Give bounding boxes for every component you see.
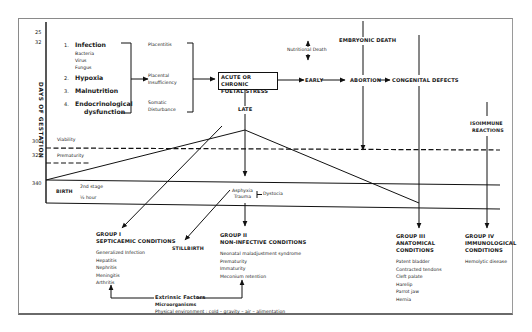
second-stage-label: 2nd stage xyxy=(80,185,103,190)
group-subtitle: SEPTICAEMIC CONDITIONS xyxy=(96,238,176,245)
axis-label: DAYS OF GESTATION xyxy=(38,82,44,159)
group-item: Hernia xyxy=(396,296,442,304)
mechanism-placental: Placental xyxy=(148,74,169,79)
abortion-label: ABORTION xyxy=(350,78,381,83)
foetal-stress-box: ACUTE OR CHRONIC FOETAL STRESS xyxy=(218,72,278,90)
group-items: Patent bladder Contracted tendons Cleft … xyxy=(396,258,442,304)
asphyxia-label: Asphyxia xyxy=(232,189,253,194)
tick-325: 325 xyxy=(32,153,42,158)
stillbirth-label: STILLBIRTH xyxy=(172,247,204,252)
cause-label: Malnutrition xyxy=(75,88,118,94)
stress-box-line2: FOETAL STRESS xyxy=(221,88,275,95)
group-3: GROUP III ANATOMICAL CONDITIONS Patent b… xyxy=(396,233,442,304)
group-item: Generalized Infection xyxy=(96,249,176,257)
group-item: Harelip xyxy=(396,281,442,289)
group-item: Contracted tendons xyxy=(396,266,442,274)
cause-label: Infection xyxy=(75,42,106,48)
tick-300: 300 xyxy=(32,139,42,144)
cause-number: 3. xyxy=(64,89,69,94)
group-item: Nephritis xyxy=(96,264,176,272)
group-item: Arthritis xyxy=(96,279,176,287)
mechanism-placentitis: Placentitis xyxy=(148,43,172,48)
tick-25: 25 xyxy=(35,30,41,35)
group-title: GROUP I xyxy=(96,231,176,238)
extrinsic-line1: Microorganisms xyxy=(155,301,285,308)
extrinsic-factors: Extrinsic Factors Microorganisms Physica… xyxy=(155,294,285,315)
extrinsic-line2: Physical environment : cold – gravity – … xyxy=(155,308,285,315)
group-subtitle: NON-INFECTIVE CONDITIONS xyxy=(220,239,306,246)
cause-label: Hypoxia xyxy=(75,75,103,81)
group-subtitle: CONDITIONS xyxy=(396,247,442,254)
tick-32: 32 xyxy=(35,40,41,45)
tick-340: 340 xyxy=(32,181,42,186)
group-subtitle: IMMUNOLOGICAL xyxy=(465,240,516,247)
group-item: Meningitis xyxy=(96,272,176,280)
embryonic-death-label: EMBRYONIC DEATH xyxy=(339,38,396,43)
group-item: Hepatitis xyxy=(96,257,176,265)
cause-sub: Virus xyxy=(75,59,87,64)
late-label: LATE xyxy=(238,107,252,112)
nutritional-death-label: Nutritional Death xyxy=(287,48,327,53)
cause-sub: Bacteria xyxy=(75,52,94,57)
group-title: GROUP II xyxy=(220,232,306,239)
group-subtitle: ANATOMICAL xyxy=(396,240,442,247)
viability-label: Viability xyxy=(57,138,75,143)
group-item: Immaturity xyxy=(220,265,306,273)
dystocia-label: Dystocia xyxy=(263,192,283,197)
mechanism-disturbance: Disturbance xyxy=(148,108,176,113)
group-4: GROUP IV IMMUNOLOGICAL CONDITIONS Hemoly… xyxy=(465,233,516,266)
cause-number: 2. xyxy=(64,76,69,81)
group-item: Meconium retention xyxy=(220,273,306,281)
group-title: GROUP III xyxy=(396,233,442,240)
isoimmune-label: ISOIMMUNE xyxy=(470,122,503,127)
group-subtitle: CONDITIONS xyxy=(465,247,516,254)
half-hour-label: ½ hour xyxy=(80,196,96,201)
prematurity-label: Prematurity xyxy=(57,154,84,159)
group-items: Hemolytic disease xyxy=(465,258,516,266)
group-item: Prematurity xyxy=(220,258,306,266)
diagram-lines xyxy=(0,0,532,332)
group-items: Neonatal maladjustment syndrome Prematur… xyxy=(220,250,306,280)
group-item: Parrot jaw xyxy=(396,288,442,296)
cause-label: dysfunction xyxy=(84,109,125,115)
birth-label: BIRTH xyxy=(56,190,73,195)
group-item: Neonatal maladjustment syndrome xyxy=(220,250,306,258)
stress-box-line1: ACUTE OR CHRONIC xyxy=(221,74,275,88)
cause-number: 4. xyxy=(64,102,69,107)
trauma-label: Trauma xyxy=(234,195,251,200)
extrinsic-title: Extrinsic Factors xyxy=(155,294,285,301)
early-label: EARLY xyxy=(305,78,323,83)
mechanism-insufficiency: Insufficiency xyxy=(148,81,177,86)
group-item: Patent bladder xyxy=(396,258,442,266)
group-title: GROUP IV xyxy=(465,233,516,240)
group-items: Generalized Infection Hepatitis Nephriti… xyxy=(96,249,176,287)
group-item: Hemolytic disease xyxy=(465,258,516,266)
congenital-defects-label: CONGENITAL DEFECTS xyxy=(392,78,459,83)
group-1: GROUP I SEPTICAEMIC CONDITIONS Generaliz… xyxy=(96,231,176,287)
cause-sub: Fungus xyxy=(75,66,91,71)
reactions-label: REACTIONS xyxy=(472,129,504,134)
group-2: GROUP II NON-INFECTIVE CONDITIONS Neonat… xyxy=(220,232,306,280)
cause-label: Endocrinological xyxy=(75,101,133,107)
group-item: Cleft palate xyxy=(396,273,442,281)
mechanism-somatic: Somatic xyxy=(148,101,167,106)
cause-number: 1. xyxy=(64,43,69,48)
